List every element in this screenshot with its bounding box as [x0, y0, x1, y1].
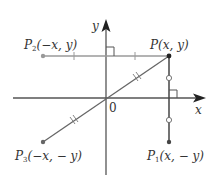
- x-axis-label: x: [195, 103, 202, 117]
- right-angle-icon: [106, 47, 114, 56]
- point-p1: [167, 140, 171, 144]
- circle-mark-icon: [166, 75, 171, 80]
- point-p3: [41, 140, 45, 144]
- diagram-canvas: y x 0 P(x, y) P2(−x, y) P3(−x, − y) P1(x…: [0, 0, 216, 184]
- label-p1: P1(x, − y): [146, 149, 204, 164]
- point-p2: [41, 54, 45, 58]
- origin-label: 0: [109, 101, 117, 115]
- label-p: P(x, y): [149, 38, 189, 52]
- point-p: [167, 54, 172, 59]
- right-angle-icon: [169, 90, 177, 98]
- symmetry-diagram: y x 0 P(x, y) P2(−x, y) P3(−x, − y) P1(x…: [0, 0, 216, 184]
- label-p3: P3(−x, − y): [14, 149, 82, 164]
- circle-mark-icon: [166, 117, 171, 122]
- label-p2: P2(−x, y): [23, 38, 77, 53]
- y-axis-label: y: [91, 19, 99, 33]
